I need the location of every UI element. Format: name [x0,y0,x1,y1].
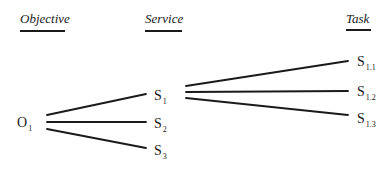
node-s1-2: S1.2 [357,85,376,105]
node-s1-sub: 1 [163,97,167,106]
node-s2-sub: 2 [163,125,167,134]
node-s3: S3 [154,144,167,164]
node-s1-2-sub: 1.2 [366,93,376,102]
node-s2: S2 [154,117,167,137]
edges [0,0,391,173]
node-o1: O1 [17,116,32,136]
edge-s1-s1-3 [186,98,348,115]
edge-s1-s1-2 [186,91,348,92]
edge-o1-s1 [47,94,146,115]
node-s1-letter: S [154,88,162,103]
edge-s1-s1-1 [186,61,348,86]
node-s1-3-sub: 1.3 [366,120,376,129]
node-s1: S1 [154,89,167,109]
node-s1-1-sub: 1.1 [366,63,376,72]
edge-o1-s3 [47,129,146,148]
node-o1-letter: O [17,115,27,130]
node-s2-letter: S [154,116,162,131]
node-s1-2-letter: S [357,84,365,99]
node-s3-sub: 3 [163,152,167,161]
node-s1-1-letter: S [357,54,365,69]
node-s1-1: S1.1 [357,55,376,75]
node-s3-letter: S [154,143,162,158]
node-s1-3-letter: S [357,111,365,126]
node-o1-sub: 1 [28,124,32,133]
node-s1-3: S1.3 [357,112,376,132]
